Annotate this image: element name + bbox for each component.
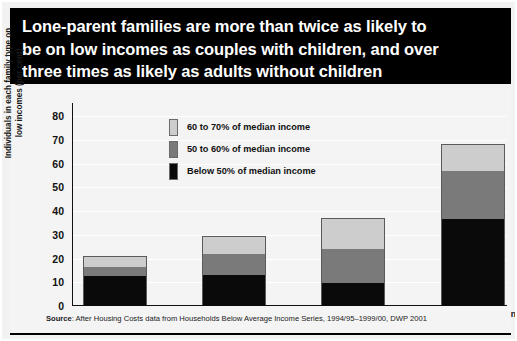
source-bar: Source: After Housing Costs data from Ho… xyxy=(10,310,511,335)
page-title: Lone-parent families are more than twice… xyxy=(22,15,499,83)
bar-2 xyxy=(202,236,266,305)
bar-segment xyxy=(442,171,504,220)
bar-segment xyxy=(442,219,504,306)
legend-swatch-icon xyxy=(169,119,178,136)
legend-item-1: 60 to 70% of median income xyxy=(169,116,316,138)
title-banner: Lone-parent families are more than twice… xyxy=(10,8,511,84)
bar-segment xyxy=(84,257,146,267)
bar-segment xyxy=(203,254,265,275)
y-tick-label: 40 xyxy=(30,205,64,217)
bar-segment xyxy=(442,145,504,171)
bar-segment xyxy=(84,276,146,306)
bar-1 xyxy=(83,256,147,305)
bar-segment xyxy=(322,283,384,306)
y-tick-label: 70 xyxy=(30,134,64,146)
plot-area: 01020304050607080 Adults, no childrenCou… xyxy=(72,103,507,306)
bar-segment xyxy=(322,249,384,283)
legend-swatch-icon xyxy=(169,141,178,158)
source-note: Source: After Housing Costs data from Ho… xyxy=(46,314,427,323)
chart-legend: 60 to 70% of median income50 to 60% of m… xyxy=(169,116,316,182)
bar-4 xyxy=(441,144,505,306)
bar-3 xyxy=(321,218,385,305)
legend-label: Below 50% of median income xyxy=(187,166,316,176)
source-body: : After Housing Costs data from Househol… xyxy=(72,314,427,323)
bar-segment xyxy=(203,237,265,254)
y-tick-label: 30 xyxy=(30,229,64,241)
y-tick-label: 50 xyxy=(30,181,64,193)
y-axis-label: Individuals in each family type on low i… xyxy=(3,0,25,188)
legend-label: 60 to 70% of median income xyxy=(187,122,310,132)
source-prefix: Source xyxy=(46,314,72,323)
y-tick-label: 10 xyxy=(30,276,64,288)
bar-segment xyxy=(203,275,265,306)
legend-item-3: Below 50% of median income xyxy=(169,160,316,182)
y-tick-label: 20 xyxy=(30,253,64,265)
plot-panel: Individuals in each family type on low i… xyxy=(10,88,511,310)
chart-figure: Lone-parent families are more than twice… xyxy=(0,0,517,341)
legend-swatch-icon xyxy=(169,163,178,180)
legend-label: 50 to 60% of median income xyxy=(187,144,310,154)
y-tick-label: 60 xyxy=(30,158,64,170)
y-tick-label: 80 xyxy=(30,110,64,122)
bar-segment xyxy=(84,267,146,277)
legend-item-2: 50 to 60% of median income xyxy=(169,138,316,160)
bar-segment xyxy=(322,219,384,249)
